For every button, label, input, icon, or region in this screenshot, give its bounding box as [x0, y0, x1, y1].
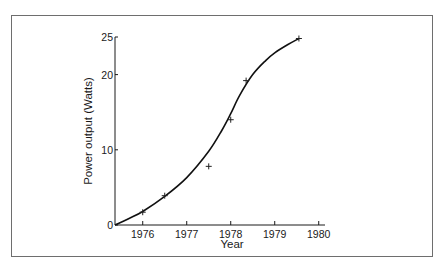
plus-marker-icon [296, 36, 302, 42]
plus-marker-icon [206, 163, 212, 169]
data-points [140, 36, 302, 216]
y-tick-label: 25 [101, 31, 113, 43]
fitted-curve [115, 39, 299, 225]
x-tick-label: 1980 [307, 228, 331, 240]
y-axis-title: Power output (Watts) [82, 77, 94, 185]
x-tick-label: 1977 [175, 228, 199, 240]
axis-ticks [115, 37, 319, 225]
chart-svg: 197619771978197919800102025 Year Power o… [0, 0, 444, 267]
tick-labels: 197619771978197919800102025 [101, 31, 330, 240]
x-tick-label: 1976 [131, 228, 155, 240]
plus-marker-icon [243, 78, 249, 84]
x-tick-label: 1979 [263, 228, 287, 240]
y-tick-label: 10 [101, 144, 113, 156]
y-tick-label: 0 [107, 219, 113, 231]
y-tick-label: 20 [101, 69, 113, 81]
x-axis-title: Year [220, 238, 243, 250]
